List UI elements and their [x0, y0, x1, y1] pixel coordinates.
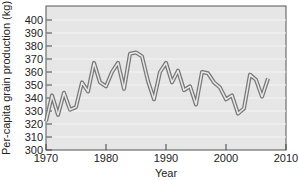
- y-tick-label: 340: [25, 92, 43, 104]
- y-tick-label: 330: [25, 105, 43, 117]
- y-tick-label: 400: [25, 14, 43, 26]
- x-tick-label: 1990: [154, 152, 178, 164]
- line-chart: 300310320330340350360370380390400 197019…: [0, 0, 299, 180]
- x-tick-label: 1970: [34, 152, 58, 164]
- y-tick-label: 320: [25, 118, 43, 130]
- x-tick-label: 2000: [214, 152, 238, 164]
- y-tick-label: 390: [25, 27, 43, 39]
- y-tick-label: 350: [25, 79, 43, 91]
- y-tick-label: 370: [25, 53, 43, 65]
- y-tick-label: 380: [25, 40, 43, 52]
- x-axis-label: Year: [155, 167, 178, 179]
- y-axis-label: Per-capita grain production (kg): [0, 1, 12, 155]
- y-tick-label: 310: [25, 131, 43, 143]
- x-tick-label: 1980: [94, 152, 118, 164]
- y-tick-label: 360: [25, 66, 43, 78]
- x-tick-label: 2010: [274, 152, 298, 164]
